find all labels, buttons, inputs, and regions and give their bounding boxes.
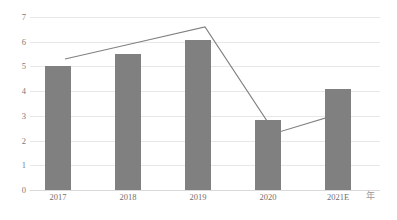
combo-chart: 7 6 5 4 3 2 1 0 2017 2018 2019 2020 2021… xyxy=(0,0,397,220)
x-tick-label-2021E: 2021E xyxy=(313,193,363,202)
trend-line xyxy=(65,27,345,133)
x-tick-label-2019: 2019 xyxy=(173,193,223,202)
x-tick-label-2020: 2020 xyxy=(243,193,293,202)
x-axis-unit-label: 年 xyxy=(366,192,375,201)
x-tick-label-2018: 2018 xyxy=(103,193,153,202)
line-series-overlay xyxy=(0,0,397,220)
x-tick-label-2017: 2017 xyxy=(33,193,83,202)
